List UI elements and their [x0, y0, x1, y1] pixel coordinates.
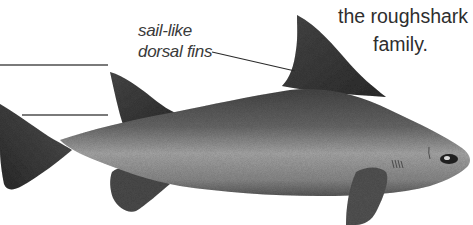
family-caption-line2: family. — [338, 30, 468, 58]
dorsal-fins-label-line2: dorsal fins — [138, 41, 212, 62]
family-caption-line1: the roughshark — [338, 2, 468, 30]
family-caption: the roughshark family. — [338, 2, 468, 58]
dorsal-fins-label-line1: sail-like — [138, 20, 212, 41]
tail-fin — [0, 104, 72, 189]
dorsal-fins-label: sail-like dorsal fins — [138, 20, 212, 62]
shark-eye — [440, 154, 458, 164]
leader-line-dorsal-fins — [212, 52, 295, 71]
roughshark-illustration: sail-like dorsal fins the roughshark fam… — [0, 0, 473, 225]
